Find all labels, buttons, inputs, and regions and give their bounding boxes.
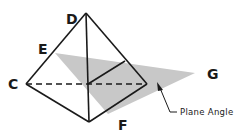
label-f: F — [118, 117, 128, 133]
leader-line — [160, 88, 177, 112]
label-c: C — [8, 76, 18, 92]
label-e: E — [38, 41, 48, 57]
tetrahedron-diagram: D E C F G Plane Angle — [0, 0, 252, 133]
edge-c-bottom — [26, 84, 89, 122]
label-g: G — [207, 66, 219, 82]
plane-angle-label: Plane Angle — [180, 107, 234, 117]
label-d: D — [66, 11, 78, 27]
